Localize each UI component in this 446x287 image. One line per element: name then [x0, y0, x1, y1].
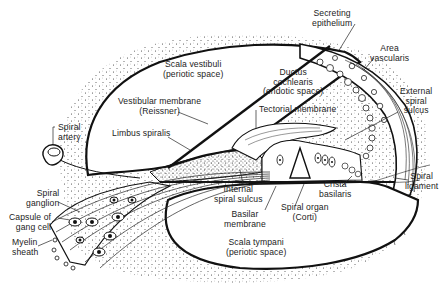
- label-external-spiral-sulcus: External spiral sulcus: [400, 87, 432, 116]
- label-ductus-cochlearis: Ductus cochlearis (endotic space): [263, 68, 323, 97]
- label-line: ligament: [405, 182, 438, 192]
- label-line: spiral sulcus: [214, 195, 263, 205]
- label-line: ganglion: [26, 199, 59, 209]
- label-line: sheath: [12, 248, 38, 258]
- label-scala-tympani: Scala tympani (periotic space): [226, 238, 286, 257]
- label-line: membrane: [224, 220, 266, 230]
- label-line: artery: [58, 133, 81, 143]
- scala-tympani-outline: [166, 182, 418, 269]
- label-area-vascularis: Area vascularis: [370, 44, 409, 63]
- label-vestibular-membrane: Vestibular membrane (Reissner): [118, 97, 201, 116]
- label-line: (periotic space): [226, 248, 286, 258]
- label-line: (Corti): [281, 213, 329, 223]
- label-capsule-of-gang-cell: Capsule of gang cell: [9, 213, 51, 232]
- label-tectorial-membrane: Tectorial membrane: [259, 105, 336, 115]
- cochlea-diagram: Scala vestibuli (periotic space) Ductus …: [0, 0, 446, 287]
- label-line: (endotic space): [263, 87, 323, 97]
- label-line: vascularis: [370, 54, 409, 64]
- label-spiral-ligament: Spiral ligament: [405, 172, 438, 191]
- label-line: basilaris: [319, 190, 351, 200]
- label-line: epithelium: [312, 19, 352, 29]
- label-line: sulcus: [400, 106, 432, 116]
- label-line: gang cell: [9, 223, 51, 233]
- label-scala-vestibuli: Scala vestibuli (periotic space): [163, 60, 223, 79]
- label-basilar-membrane: Basilar membrane: [224, 210, 266, 229]
- label-secreting-epithelium: Secreting epithelium: [312, 9, 352, 28]
- label-spiral-artery: Spiral artery: [58, 123, 81, 142]
- label-spiral-organ: Spiral organ (Corti): [281, 203, 329, 222]
- label-internal-spiral-sulcus: Internal spiral sulcus: [214, 185, 263, 204]
- label-spiral-ganglion: Spiral ganglion: [26, 189, 59, 208]
- label-crista-basilaris: Crista basilaris: [319, 180, 351, 199]
- label-myelin-sheath: Myelin sheath: [12, 238, 38, 257]
- label-line: Limbus spiralis: [112, 129, 170, 139]
- label-line: (periotic space): [163, 70, 223, 80]
- label-limbus-spiralis: Limbus spiralis: [112, 129, 170, 139]
- label-line: (Reissner): [118, 107, 201, 117]
- label-line: Tectorial membrane: [259, 105, 336, 115]
